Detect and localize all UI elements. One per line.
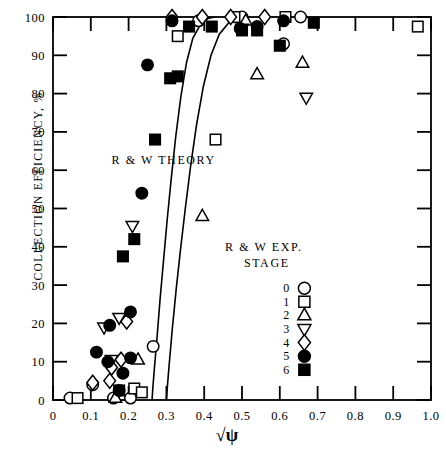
x-tick-label: 0.6 — [271, 409, 288, 423]
data-point — [184, 21, 195, 32]
data-point — [72, 393, 83, 404]
plot-frame — [53, 17, 431, 400]
x-tick-label: 0.1 — [82, 409, 99, 423]
y-tick-label: 10 — [32, 355, 46, 369]
data-point — [251, 68, 264, 79]
theory-label: R & W THEORY — [112, 153, 216, 167]
y-tick-label: 80 — [32, 87, 46, 101]
y-tick-label: 50 — [32, 202, 46, 216]
y-tick-label: 40 — [32, 240, 46, 254]
data-point — [300, 93, 313, 104]
data-point — [125, 352, 136, 363]
data-point — [117, 367, 128, 378]
legend: 0123456 — [283, 281, 311, 377]
data-point — [136, 187, 147, 198]
collection-efficiency-scatter-plot: 0102030405060708090100 00.10.20.30.40.50… — [0, 0, 446, 458]
legend-item-stage-0: 0 — [283, 281, 310, 295]
legend-item-stage-3: 3 — [283, 322, 311, 336]
x-axis-ticks — [53, 17, 431, 400]
legend-label: 1 — [283, 295, 289, 309]
y-axis-tick-labels: 0102030405060708090100 — [25, 11, 45, 408]
legend-label: 5 — [283, 349, 289, 363]
x-axis-title: √ψ — [216, 425, 239, 445]
series-stage-1 — [72, 12, 423, 404]
data-point — [412, 21, 423, 32]
data-point — [206, 21, 217, 32]
data-point — [113, 385, 124, 396]
data-point — [309, 17, 320, 28]
data-point — [150, 134, 161, 145]
legend-item-stage-4: 4 — [283, 335, 310, 351]
y-tick-label: 60 — [32, 164, 46, 178]
x-tick-label: 0.2 — [120, 409, 137, 423]
plot-border — [53, 17, 431, 400]
series-stage-4 — [87, 10, 271, 391]
legend-marker — [299, 296, 310, 307]
y-tick-label: 90 — [32, 49, 46, 63]
chart-figure: COLLECTION EFFICIENCY, % 010203040506070… — [0, 0, 446, 458]
exp-label-line1: R & W EXP. — [225, 240, 303, 254]
x-tick-label: 0.8 — [347, 409, 364, 423]
data-point — [196, 209, 209, 220]
data-point — [129, 234, 140, 245]
x-tick-label: 0.9 — [385, 409, 402, 423]
data-points — [64, 10, 423, 404]
data-point — [142, 59, 153, 70]
data-point — [252, 25, 263, 36]
x-tick-label: 0.3 — [158, 409, 175, 423]
data-point — [118, 251, 129, 262]
legend-marker — [298, 350, 310, 362]
data-point — [126, 222, 139, 233]
data-point — [172, 31, 183, 42]
data-point — [147, 341, 158, 352]
data-point — [91, 346, 102, 357]
y-tick-label: 100 — [25, 11, 45, 25]
data-point — [237, 25, 248, 36]
y-tick-label: 70 — [32, 125, 46, 139]
legend-marker — [298, 308, 311, 320]
data-point — [137, 387, 148, 398]
legend-item-stage-5: 5 — [283, 349, 310, 363]
legend-marker — [298, 335, 310, 351]
legend-label: 0 — [283, 281, 289, 295]
data-point — [166, 15, 177, 26]
data-point — [296, 56, 309, 67]
x-axis-tick-labels: 00.10.20.30.40.50.60.70.80.91.0 — [50, 409, 440, 423]
data-point — [278, 15, 289, 26]
series-stage-2 — [109, 14, 309, 402]
exp-label-line2: STAGE — [244, 256, 290, 270]
data-point — [102, 356, 113, 367]
y-tick-label: 0 — [38, 394, 45, 408]
x-tick-label: 0 — [50, 409, 57, 423]
x-tick-label: 0.7 — [309, 409, 326, 423]
data-point — [295, 11, 306, 22]
legend-label: 4 — [283, 336, 289, 350]
x-tick-label: 0.4 — [196, 409, 213, 423]
legend-label: 3 — [283, 322, 289, 336]
legend-item-stage-6: 6 — [283, 363, 310, 377]
y-axis-ticks — [53, 17, 431, 400]
legend-marker — [298, 282, 310, 294]
legend-label: 6 — [283, 363, 289, 377]
data-point — [125, 306, 136, 317]
x-tick-label: 1.0 — [422, 409, 439, 423]
data-point — [210, 134, 221, 145]
legend-marker — [299, 364, 310, 375]
legend-item-stage-1: 1 — [283, 295, 310, 309]
data-point — [104, 320, 115, 331]
legend-label: 2 — [283, 308, 289, 322]
plot-annotations: R & W THEORYR & W EXP.STAGE — [112, 153, 303, 270]
data-point — [172, 71, 183, 82]
data-point — [275, 40, 286, 51]
x-tick-label: 0.5 — [233, 409, 250, 423]
y-tick-label: 30 — [32, 279, 46, 293]
y-tick-label: 20 — [32, 317, 46, 331]
legend-item-stage-2: 2 — [283, 308, 311, 322]
